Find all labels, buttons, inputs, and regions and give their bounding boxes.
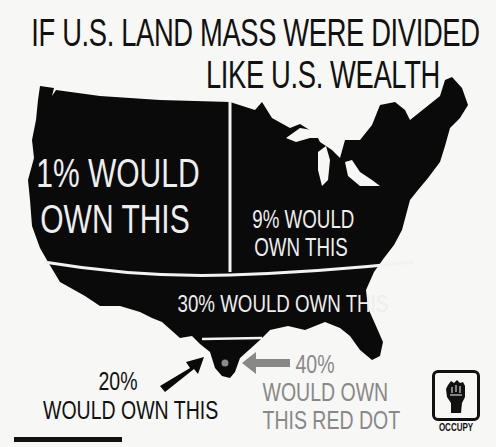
red-dot (222, 360, 229, 367)
logo-frame (432, 370, 480, 421)
label-9-line2: OWN THIS (252, 233, 350, 261)
divider-south-texas (202, 338, 262, 339)
bottom-rule (14, 437, 122, 442)
label-40-line3: THIS RED DOT (263, 406, 368, 434)
label-1-percent: 1% WOULD OWN THIS (36, 150, 194, 242)
occupy-logo: OCCUPY (430, 370, 482, 440)
label-9-percent: 9% WOULD OWN THIS (252, 205, 350, 261)
label-30-percent: 30% WOULD OWN THIS (178, 292, 373, 316)
label-40-line1: 40% (263, 350, 368, 378)
logo-text: OCCUPY (435, 422, 477, 433)
label-20-line1: 20% (43, 367, 193, 396)
label-9-line1: 9% WOULD (252, 205, 350, 233)
label-40-percent: 40% WOULD OWN THIS RED DOT (263, 350, 368, 434)
label-1-line1: 1% WOULD (36, 150, 194, 196)
label-1-line2: OWN THIS (36, 196, 194, 242)
label-20-line2: WOULD OWN THIS (43, 396, 193, 425)
label-40-line2: WOULD OWN (263, 378, 368, 406)
label-20-percent: 20% WOULD OWN THIS (43, 367, 193, 425)
raised-fist-icon (435, 373, 477, 418)
